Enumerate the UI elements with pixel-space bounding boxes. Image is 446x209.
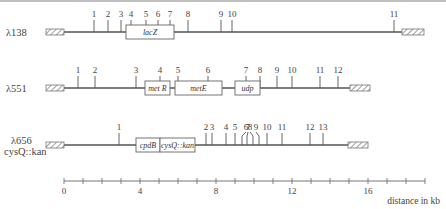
axis-tick-label: 8 xyxy=(214,186,219,196)
gene-label: lacZ xyxy=(143,28,158,37)
restriction-site-label: 12 xyxy=(306,122,315,132)
vector-arm-right xyxy=(348,142,368,148)
vector-arm-left xyxy=(46,85,64,91)
restriction-site-label: 3 xyxy=(210,122,215,132)
construct-subname: cysQ::kan xyxy=(4,146,47,157)
gene-label: metE xyxy=(190,84,207,93)
restriction-site-label: 2 xyxy=(93,65,98,75)
restriction-site-label: 2 xyxy=(204,122,209,132)
restriction-site-tick xyxy=(247,132,248,145)
restriction-site-label: 10 xyxy=(263,122,273,132)
gene-label: met R xyxy=(148,84,167,93)
restriction-site-label: 1 xyxy=(92,9,97,19)
restriction-site-label: 4 xyxy=(129,9,134,19)
restriction-site-label: 3 xyxy=(134,65,139,75)
construct-name: λ656 xyxy=(11,135,32,146)
restriction-site-label: 9 xyxy=(254,122,259,132)
restriction-site-label: 9 xyxy=(219,9,224,19)
restriction-site-label: 8 xyxy=(248,122,253,132)
gene-label: cpdB xyxy=(140,141,157,150)
restriction-site-label: 5 xyxy=(233,122,238,132)
vector-arm-right xyxy=(350,85,370,91)
vector-arm-right xyxy=(402,29,424,35)
restriction-site-label: 5 xyxy=(144,9,149,19)
restriction-site-label: 11 xyxy=(316,65,325,75)
axis-tick-label: 16 xyxy=(364,186,374,196)
gene-label: cysQ::kan xyxy=(161,141,194,150)
restriction-site-label: 10 xyxy=(228,9,238,19)
distance-scale-axis: 0481216distance in kb xyxy=(62,178,440,206)
restriction-site-label: 13 xyxy=(319,122,329,132)
restriction-site-tick xyxy=(250,132,253,145)
axis-unit-label: distance in kb xyxy=(387,196,440,206)
restriction-site-label: 12 xyxy=(334,65,343,75)
axis-tick-label: 0 xyxy=(62,186,67,196)
restriction-site-label: 11 xyxy=(390,9,399,19)
restriction-site-label: 9 xyxy=(275,65,280,75)
construct-name: λ138 xyxy=(6,27,27,38)
gene-label: udp xyxy=(242,84,254,93)
restriction-site-label: 7 xyxy=(168,9,173,19)
vector-arm-left xyxy=(46,142,64,148)
restriction-site-label: 11 xyxy=(278,122,287,132)
restriction-site-tick xyxy=(242,132,246,145)
axis-tick-label: 12 xyxy=(288,186,297,196)
restriction-site-label: 4 xyxy=(158,65,163,75)
construct-track: λ1381234567891011lacZ xyxy=(6,9,424,39)
vector-arm-left xyxy=(46,29,64,35)
restriction-site-label: 1 xyxy=(76,65,81,75)
construct-track: λ551123456789101112met RmetEudp xyxy=(6,65,370,95)
construct-track: λ656cysQ::kan12345678910111213cpdBcysQ::… xyxy=(4,122,368,157)
restriction-site-label: 8 xyxy=(186,9,191,19)
restriction-site-label: 5 xyxy=(176,65,181,75)
restriction-map-diagram: λ1381234567891011lacZλ551123456789101112… xyxy=(0,0,446,209)
restriction-site-label: 3 xyxy=(119,9,124,19)
restriction-site-label: 8 xyxy=(258,65,263,75)
construct-tracks: λ1381234567891011lacZλ551123456789101112… xyxy=(4,9,424,157)
restriction-site-label: 6 xyxy=(156,9,161,19)
axis-tick-label: 4 xyxy=(138,186,143,196)
restriction-site-label: 1 xyxy=(117,122,122,132)
restriction-site-label: 7 xyxy=(244,65,249,75)
restriction-site-label: 10 xyxy=(288,65,298,75)
restriction-site-label: 6 xyxy=(206,65,211,75)
construct-name: λ551 xyxy=(6,83,27,94)
restriction-site-label: 2 xyxy=(106,9,111,19)
restriction-site-tick xyxy=(256,132,259,145)
restriction-site-label: 4 xyxy=(224,122,229,132)
